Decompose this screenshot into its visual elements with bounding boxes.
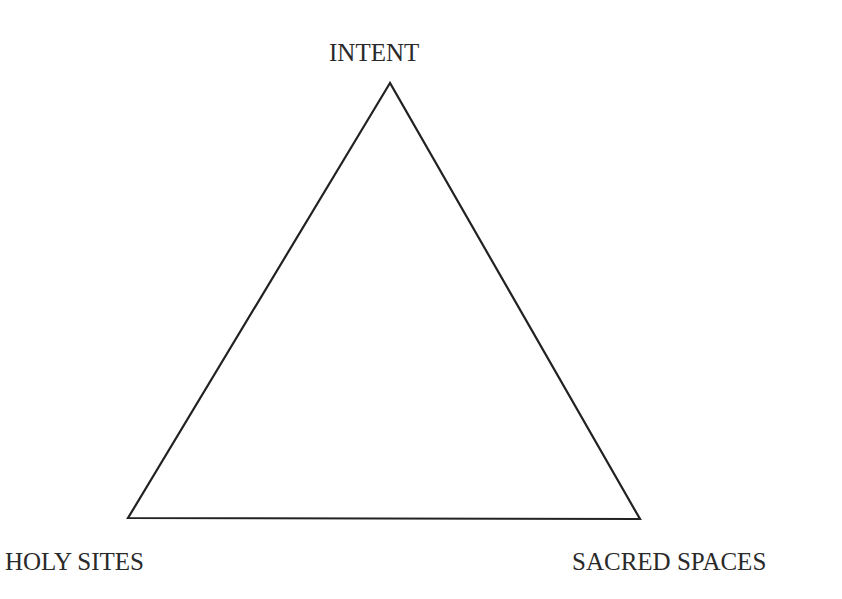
- triangle-shape: [128, 83, 640, 519]
- vertex-label-sacred-spaces: SACRED SPACES: [572, 549, 766, 574]
- vertex-label-holy-sites: HOLY SITES: [5, 549, 144, 574]
- triangle-diagram: [0, 0, 842, 599]
- vertex-label-intent: INTENT: [329, 40, 419, 65]
